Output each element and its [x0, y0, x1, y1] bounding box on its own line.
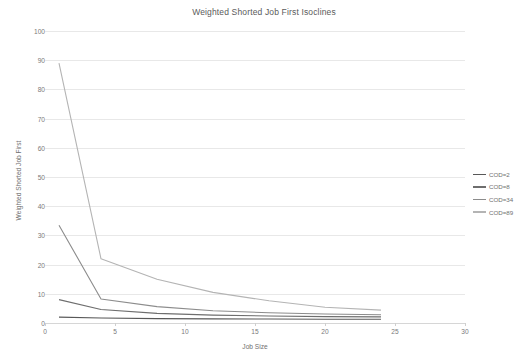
x-axis-tick-label: 15 — [251, 328, 258, 335]
x-axis-tick-label: 10 — [181, 328, 188, 335]
y-axis-tick-label: 70 — [19, 115, 45, 122]
legend-item[interactable]: COD=8 — [473, 181, 528, 194]
x-axis-tick-mark — [185, 323, 186, 326]
x-axis-tick-label: 5 — [113, 328, 117, 335]
series-line — [59, 63, 381, 310]
x-axis-tick-mark — [255, 323, 256, 326]
series-lines — [45, 31, 465, 323]
y-axis-tick-label: 90 — [19, 57, 45, 64]
y-axis-tick-label: 40 — [19, 203, 45, 210]
legend-label: COD=2 — [489, 171, 510, 178]
x-axis-tick-label: 20 — [321, 328, 328, 335]
y-axis-tick-label: 80 — [19, 86, 45, 93]
y-axis-title: Weighted Shorted Job First — [15, 116, 22, 246]
x-axis-tick-mark — [465, 323, 466, 326]
y-axis-tick-label: 100 — [19, 28, 45, 35]
legend-item[interactable]: COD=34 — [473, 193, 528, 206]
y-axis-tick-label: 50 — [19, 174, 45, 181]
y-axis-tick-label: 30 — [19, 232, 45, 239]
chart-title: Weighted Shorted Job First Isoclines — [0, 7, 528, 17]
legend-item[interactable]: COD=2 — [473, 168, 528, 181]
legend-color-swatch — [473, 174, 486, 176]
chart-container: Weighted Shorted Job First Isoclines 010… — [0, 0, 528, 361]
legend-item[interactable]: COD=89 — [473, 206, 528, 219]
y-axis-tick-label: 20 — [19, 261, 45, 268]
y-axis-tick-label: 60 — [19, 144, 45, 151]
legend-label: COD=34 — [489, 196, 513, 203]
x-axis-tick-label: 25 — [391, 328, 398, 335]
plot-area — [45, 31, 465, 323]
y-axis-tick-label: 0 — [19, 320, 45, 327]
chart-legend: COD=2COD=8COD=34COD=89 — [473, 168, 528, 218]
x-axis-title: Job Size — [45, 343, 465, 350]
series-line — [59, 225, 381, 315]
legend-color-swatch — [473, 199, 486, 201]
x-axis-tick-mark — [45, 323, 46, 326]
x-axis-tick-mark — [395, 323, 396, 326]
y-axis-tick-label: 10 — [19, 290, 45, 297]
x-axis-tick-label: 0 — [43, 328, 47, 335]
x-axis-tick-mark — [115, 323, 116, 326]
x-axis-tick-mark — [325, 323, 326, 326]
series-line — [59, 317, 381, 319]
legend-label: COD=89 — [489, 209, 513, 216]
legend-label: COD=8 — [489, 183, 510, 190]
legend-color-swatch — [473, 211, 486, 213]
x-axis-tick-label: 30 — [461, 328, 468, 335]
legend-color-swatch — [473, 186, 486, 188]
